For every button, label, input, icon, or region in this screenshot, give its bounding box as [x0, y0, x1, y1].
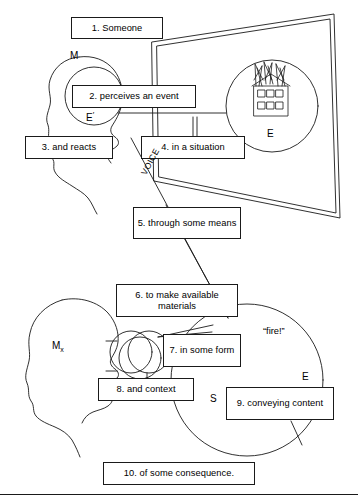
- scene-frame-icon: [152, 14, 340, 218]
- label-situation-lower: S: [210, 393, 217, 404]
- label-mind-upper: M: [70, 50, 78, 61]
- footer-divider: [0, 494, 358, 495]
- step-box-9[interactable]: 9. conveying content: [226, 387, 334, 420]
- connector-circle-tail: [291, 421, 302, 445]
- diagram-vector-layer: [0, 0, 358, 503]
- label-event-lower: E: [302, 371, 309, 382]
- burning-building-icon: [252, 62, 290, 116]
- label-mind-lower-sub: x: [60, 346, 64, 353]
- label-percept-upper: E′: [86, 110, 94, 123]
- step-box-8[interactable]: 8. and context: [98, 378, 194, 401]
- step-box-7[interactable]: 7. in some form: [163, 334, 241, 367]
- label-event-upper: E: [267, 128, 274, 139]
- step-box-3[interactable]: 3. and reacts: [25, 136, 113, 159]
- label-utterance-fire: “fire!”: [263, 326, 285, 336]
- sound-waves-icon: [110, 331, 170, 379]
- step-box-10[interactable]: 10. of some consequence.: [103, 462, 255, 485]
- step-box-1[interactable]: 1. Someone: [71, 17, 163, 39]
- diagram-canvas: 1. Someone 2. perceives an event 3. and …: [0, 0, 358, 503]
- label-percept-upper-prime: ′: [93, 110, 95, 119]
- step-box-5[interactable]: 5. through some means: [133, 207, 241, 239]
- step-box-2[interactable]: 2. perceives an event: [72, 85, 196, 108]
- step-box-6[interactable]: 6. to make available materials: [116, 284, 238, 317]
- label-mind-lower: Mx: [52, 340, 64, 353]
- label-percept-upper-e: E: [86, 112, 93, 123]
